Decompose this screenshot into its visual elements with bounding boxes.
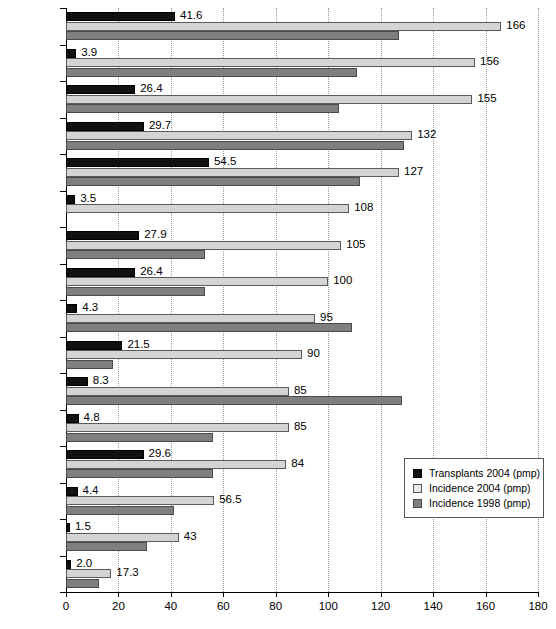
bar-2-poland	[66, 250, 205, 259]
y-tick-5	[60, 191, 66, 192]
bar-value-label: 27.9	[144, 230, 166, 239]
bar-1-bulgaria	[66, 423, 289, 432]
bar-value-label: 100	[333, 276, 352, 285]
bar-value-label: 1.5	[75, 522, 91, 531]
bar-value-label: 3.9	[81, 48, 97, 57]
bar-1-byelorussia	[66, 533, 179, 542]
figure-caption	[4, 620, 552, 629]
bar-value-label: 156	[480, 57, 499, 66]
bar-group: 4.395	[66, 304, 538, 332]
bar-1-russia	[66, 569, 111, 578]
bar-2-estonia	[66, 469, 213, 478]
bar-value-label: 90	[307, 349, 320, 358]
bar-0-macedonia	[66, 377, 88, 386]
bar-group: 41.6166	[66, 12, 538, 40]
legend-item-incidence-2004: Incidence 2004 (pmp)	[413, 481, 535, 495]
legend-label-incidence-1998: Incidence 1998 (pmp)	[429, 497, 531, 509]
bar-group: 27.9105	[66, 231, 538, 259]
bar-value-label: 29.6	[149, 449, 171, 458]
bar-1-czech-rep	[66, 22, 501, 31]
bar-2-latvia	[66, 287, 205, 296]
bar-value-label: 155	[477, 94, 496, 103]
bar-0-poland	[66, 231, 139, 240]
bar-0-slovenia	[66, 158, 209, 167]
x-tick-label-0: 0	[63, 600, 69, 612]
y-tick-0	[60, 8, 66, 9]
bar-1-slovakia	[66, 58, 475, 67]
bar-value-label: 127	[404, 167, 423, 176]
bar-0-lithuania	[66, 341, 122, 350]
bar-value-label: 43	[184, 532, 197, 541]
bar-2-russia	[66, 579, 99, 588]
bar-0-slovakia	[66, 49, 76, 58]
y-tick-7	[60, 264, 66, 265]
bar-0-bosnia	[66, 195, 75, 204]
bar-value-label: 21.5	[127, 340, 149, 349]
x-tick-120	[381, 592, 382, 597]
bar-1-latvia	[66, 277, 328, 286]
y-tick-9	[60, 337, 66, 338]
bar-value-label: 166	[506, 21, 525, 30]
bar-0-serbia	[66, 304, 77, 313]
bar-group: 26.4155	[66, 85, 538, 113]
bar-value-label: 85	[294, 422, 307, 431]
bar-value-label: 2.0	[76, 559, 92, 568]
legend-swatch-incidence-2004	[413, 484, 422, 493]
legend-swatch-incidence-1998	[413, 499, 422, 508]
bar-2-bulgaria	[66, 433, 213, 442]
bar-2-croatia	[66, 104, 339, 113]
bar-value-label: 41.6	[180, 11, 202, 20]
y-tick-13	[60, 483, 66, 484]
bar-value-label: 4.3	[82, 303, 98, 312]
x-tick-140	[433, 592, 434, 597]
bar-1-romania	[66, 496, 214, 505]
x-axis-line	[66, 592, 539, 593]
y-tick-4	[60, 154, 66, 155]
bar-value-label: 54.5	[214, 157, 236, 166]
x-tick-label-120: 120	[371, 600, 390, 612]
bar-value-label: 26.4	[140, 84, 162, 93]
y-tick-10	[60, 373, 66, 374]
bar-2-slovakia	[66, 68, 357, 77]
bar-value-label: 4.8	[84, 413, 100, 422]
bar-0-russia	[66, 560, 71, 569]
x-tick-0	[66, 592, 67, 597]
bar-group: 29.7132	[66, 122, 538, 150]
bar-1-hungary	[66, 131, 412, 140]
x-tick-100	[328, 592, 329, 597]
y-tick-8	[60, 300, 66, 301]
chart-root: 020406080100120140160180 Czech Rep.Slova…	[0, 0, 556, 629]
bar-group: 8.385	[66, 377, 538, 405]
x-tick-label-180: 180	[528, 600, 547, 612]
x-tick-80	[276, 592, 277, 597]
legend-item-incidence-1998: Incidence 1998 (pmp)	[413, 496, 535, 510]
bar-1-poland	[66, 241, 341, 250]
bar-1-serbia	[66, 314, 315, 323]
bar-0-hungary	[66, 122, 144, 131]
x-tick-label-80: 80	[269, 600, 282, 612]
bar-group: 1.543	[66, 523, 538, 551]
bar-0-estonia	[66, 450, 144, 459]
bar-value-label: 85	[294, 386, 307, 395]
bar-0-croatia	[66, 85, 135, 94]
bar-1-slovenia	[66, 168, 399, 177]
legend-swatch-transplants-2004	[413, 469, 422, 478]
x-tick-label-100: 100	[319, 600, 338, 612]
x-tick-40	[171, 592, 172, 597]
legend-item-transplants-2004: Transplants 2004 (pmp)	[413, 466, 535, 480]
bar-0-romania	[66, 487, 78, 496]
bar-group: 4.885	[66, 414, 538, 442]
bar-0-czech-rep	[66, 12, 175, 21]
y-tick-6	[60, 227, 66, 228]
x-tick-60	[223, 592, 224, 597]
bar-value-label: 29.7	[149, 121, 171, 130]
bar-1-lithuania	[66, 350, 302, 359]
bar-value-label: 4.4	[83, 486, 99, 495]
bar-2-romania	[66, 506, 174, 515]
bar-0-latvia	[66, 268, 135, 277]
x-tick-160	[486, 592, 487, 597]
bar-1-croatia	[66, 95, 472, 104]
y-tick-11	[60, 410, 66, 411]
bar-group: 2.017.3	[66, 560, 538, 588]
x-tick-label-40: 40	[164, 600, 177, 612]
